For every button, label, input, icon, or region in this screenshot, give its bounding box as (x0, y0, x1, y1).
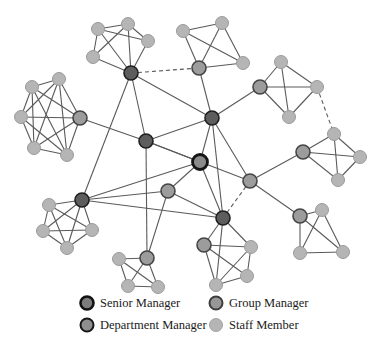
node-k1-staff-member (43, 199, 56, 212)
legend: Senior ManagerGroup ManagerDepartment Ma… (81, 296, 310, 332)
edge-d2-d3 (146, 118, 212, 141)
edge-h1-h3 (322, 210, 343, 252)
edge-f2-g4 (303, 152, 360, 157)
legend-marker-department-manager-icon (81, 319, 94, 332)
node-h2-staff-member (294, 247, 307, 260)
edge-g4-g8 (250, 152, 303, 181)
node-d3-department-manager (205, 111, 219, 125)
node-c3-staff-member (237, 57, 250, 70)
node-s1-senior-manager (193, 155, 208, 170)
legend-marker-staff-member-icon (210, 319, 223, 332)
figure-container: Senior ManagerGroup ManagerDepartment Ma… (0, 0, 386, 356)
node-h1-staff-member (316, 204, 329, 217)
node-i3-staff-member (210, 279, 223, 292)
node-g2-group-manager (192, 61, 206, 75)
node-d1-department-manager (124, 66, 138, 80)
node-g3-group-manager (253, 80, 267, 94)
node-b4-staff-member (28, 142, 41, 155)
node-c1-staff-member (177, 25, 190, 38)
edge-g3-d3 (212, 87, 260, 118)
node-d4-department-manager (75, 193, 89, 207)
node-k3-staff-member (86, 224, 99, 237)
node-g7-group-manager (140, 251, 154, 265)
node-g4-group-manager (296, 145, 310, 159)
edge-d1-d4 (82, 73, 131, 200)
node-g6-group-manager (197, 238, 211, 252)
legend-label-department-manager: Department Manager (100, 318, 207, 332)
edge-e1-e3 (281, 62, 289, 117)
node-g8-group-manager (243, 174, 257, 188)
node-f3-staff-member (332, 174, 345, 187)
edge-d5-i3 (216, 218, 223, 285)
legend-marker-group-manager-icon (210, 297, 223, 310)
edge-d1-d3 (131, 73, 212, 118)
node-d5-department-manager (216, 211, 230, 225)
node-j3-staff-member (152, 281, 165, 294)
node-d2-department-manager (139, 134, 153, 148)
node-j2-staff-member (122, 280, 135, 293)
node-h3-staff-member (337, 246, 350, 259)
node-b3-staff-member (15, 111, 28, 124)
node-a4-staff-member (87, 51, 100, 64)
edge-h3-g5 (300, 216, 343, 252)
edge-b2-b5 (59, 79, 67, 155)
legend-marker-senior-manager-icon (81, 297, 94, 310)
node-i1-staff-member (245, 241, 258, 254)
legend-item-department-manager: Department Manager (81, 318, 208, 332)
legend-label-staff-member: Staff Member (229, 318, 299, 332)
node-a3-staff-member (142, 35, 155, 48)
node-k4-staff-member (61, 242, 74, 255)
node-i2-staff-member (241, 270, 254, 283)
legend-item-group-manager: Group Manager (210, 296, 310, 310)
edge-d2-g7 (146, 141, 147, 258)
node-f2-staff-member (354, 151, 367, 164)
edge-d1-d2 (131, 73, 146, 141)
node-b1-staff-member (26, 81, 39, 94)
node-e2-staff-member (311, 81, 324, 94)
legend-label-group-manager: Group Manager (229, 296, 309, 310)
node-g1-group-manager (73, 111, 87, 125)
node-b5-staff-member (61, 149, 74, 162)
edge-g9-g7 (147, 191, 168, 258)
edge-k2-k3 (43, 230, 92, 231)
node-e1-staff-member (275, 56, 288, 69)
edge-i2-g6 (204, 245, 247, 276)
edge-d1-g2 (131, 68, 199, 73)
edge-e2-f1 (317, 87, 334, 134)
node-a1-staff-member (92, 23, 105, 36)
legend-item-senior-manager: Senior Manager (81, 296, 182, 310)
node-k2-staff-member (37, 225, 50, 238)
edge-g5-g8 (250, 181, 300, 216)
node-g9-group-manager (161, 184, 175, 198)
edge-d4-d5 (82, 200, 223, 218)
node-b2-staff-member (53, 73, 66, 86)
edge-b1-g1 (32, 87, 80, 118)
node-e3-staff-member (283, 111, 296, 124)
node-a2-staff-member (122, 18, 135, 31)
network-diagram: Senior ManagerGroup ManagerDepartment Ma… (0, 0, 386, 356)
node-layer (15, 17, 367, 294)
node-c2-staff-member (216, 17, 229, 30)
legend-label-senior-manager: Senior Manager (100, 296, 181, 310)
node-j1-staff-member (113, 253, 126, 266)
node-g5-group-manager (293, 209, 307, 223)
node-f1-staff-member (328, 128, 341, 141)
edge-b3-g1 (21, 117, 80, 118)
legend-item-staff-member: Staff Member (210, 318, 300, 332)
edge-g1-d2 (80, 118, 146, 141)
